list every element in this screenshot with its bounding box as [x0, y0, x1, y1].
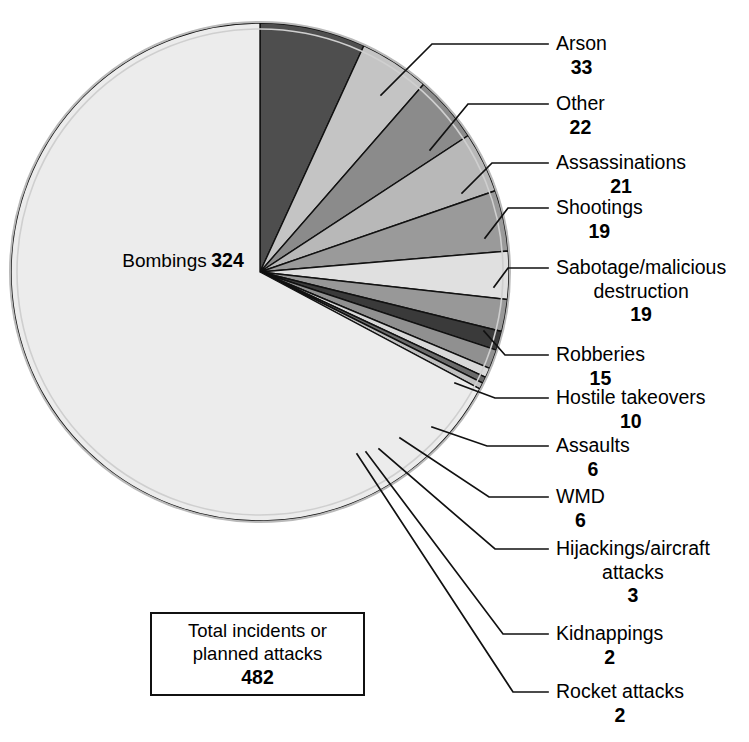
callout-shootings-name: Shootings — [556, 196, 643, 220]
callout-hostile-takeovers-value: 10 — [556, 410, 706, 434]
callout-hijackings-name: Hijackings/aircraft — [556, 537, 710, 561]
pie-slice-group — [11, 23, 509, 521]
callout-kidnappings-name: Kidnappings — [556, 622, 663, 646]
callout-rocket-attacks-value: 2 — [556, 704, 684, 728]
callout-assassinations: Assassinations 21 — [556, 151, 686, 198]
callout-sabotage: Sabotage/malicious destruction 19 — [556, 256, 726, 327]
callout-sabotage-name-line2: destruction — [556, 280, 726, 304]
callout-assaults-value: 6 — [556, 458, 630, 482]
callout-hijackings-name-line2: attacks — [556, 561, 710, 585]
callout-other: Other 22 — [556, 92, 605, 139]
leader-line-rockets — [357, 454, 548, 692]
callout-shootings-value: 19 — [556, 220, 643, 244]
total-incidents-line2: planned attacks — [193, 642, 323, 665]
callout-sabotage-value: 19 — [556, 303, 726, 327]
total-incidents-value: 482 — [241, 665, 274, 689]
callout-rocket-attacks-name: Rocket attacks — [556, 680, 684, 704]
slice-label-bombings-name: Bombings — [122, 250, 207, 271]
callout-arson-value: 33 — [556, 56, 607, 80]
callout-hostile-takeovers-name: Hostile takeovers — [556, 386, 706, 410]
total-incidents-line1: Total incidents or — [188, 619, 327, 642]
callout-sabotage-name: Sabotage/malicious — [556, 256, 726, 280]
callout-hostile-takeovers: Hostile takeovers 10 — [556, 386, 706, 433]
callout-shootings: Shootings 19 — [556, 196, 643, 243]
callout-kidnappings: Kidnappings 2 — [556, 622, 663, 669]
callout-arson: Arson 33 — [556, 32, 607, 79]
callout-assaults-name: Assaults — [556, 434, 630, 458]
callout-hijackings-value: 3 — [556, 584, 710, 608]
slice-label-bombings-value: 324 — [211, 249, 244, 271]
slice-label-bombings: Bombings 324 — [108, 248, 258, 272]
callout-rocket-attacks: Rocket attacks 2 — [556, 680, 684, 727]
callout-other-name: Other — [556, 92, 605, 116]
callout-assassinations-name: Assassinations — [556, 151, 686, 175]
callout-arson-name: Arson — [556, 32, 607, 56]
callout-robberies: Robberies 15 — [556, 343, 645, 390]
callout-robberies-name: Robberies — [556, 343, 645, 367]
callout-assassinations-value: 21 — [556, 175, 686, 199]
callout-assaults: Assaults 6 — [556, 434, 630, 481]
callout-hijackings: Hijackings/aircraft attacks 3 — [556, 537, 710, 608]
callout-kidnappings-value: 2 — [556, 646, 663, 670]
callout-wmd-value: 6 — [556, 509, 605, 533]
chart-canvas: Bombings 324 Arson 33 Other 22 Assassina… — [0, 0, 749, 742]
callout-wmd-name: WMD — [556, 485, 605, 509]
total-incidents-box: Total incidents or planned attacks 482 — [150, 612, 365, 696]
callout-other-value: 22 — [556, 116, 605, 140]
callout-wmd: WMD 6 — [556, 485, 605, 532]
